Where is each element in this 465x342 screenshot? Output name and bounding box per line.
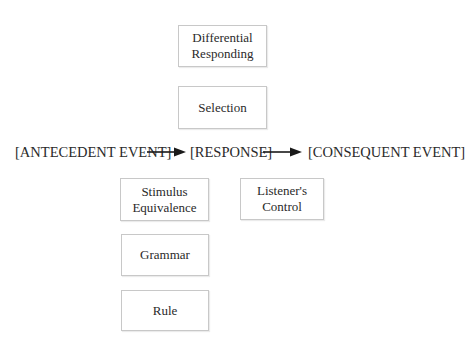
response-label: [RESPONSE] — [190, 143, 272, 161]
box-selection: Selection — [178, 86, 267, 129]
arrow-right-icon — [147, 146, 187, 158]
consequent-event-label: [CONSEQUENT EVENT] — [308, 143, 465, 161]
arrow-right-icon — [263, 146, 303, 158]
box-grammar: Grammar — [121, 234, 209, 276]
box-differential-responding: Differential Responding — [178, 25, 267, 67]
box-stimulus-equivalence: Stimulus Equivalence — [120, 178, 209, 221]
box-rule: Rule — [121, 290, 209, 331]
box-listeners-control: Listener's Control — [240, 178, 324, 220]
